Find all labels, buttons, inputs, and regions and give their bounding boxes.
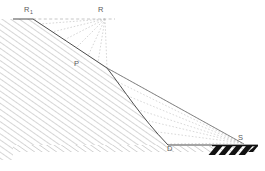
fan-ray-upper-3 [64,19,105,40]
label-point-R1: R1 [24,6,33,14]
label-point-P: P [74,60,79,68]
label-R1-subscript: 1 [30,9,33,15]
figure-canvas [0,0,265,171]
fan-ray-upper-1 [40,19,105,24]
label-point-D: D [167,145,173,153]
label-point-R: R [98,6,104,14]
soil-wedge-hatched-region [0,19,168,171]
fan-ray-lower-6 [158,132,242,143]
fan-ray-upper-2 [52,19,105,32]
label-R1-text: R [24,5,30,14]
fan-ray-upper-7 [105,19,107,68]
fan-ray-upper-6 [98,19,105,62]
fan-ray-upper-5 [88,19,105,56]
fan-ray-lower-7 [168,143,242,144]
label-point-S: S [238,134,243,142]
slope-stability-figure: R1 R P D S [0,0,265,171]
